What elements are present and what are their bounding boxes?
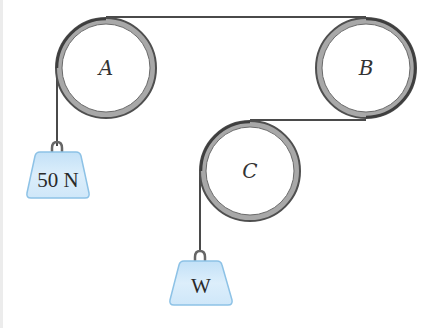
- pulley-a: A: [56, 18, 156, 118]
- pulley-c: C: [200, 121, 300, 221]
- weight-w: W: [170, 251, 232, 305]
- weight-w-label: W: [191, 274, 211, 298]
- pulley-a-label: A: [97, 56, 113, 80]
- diagram-canvas: A B C 50 N W: [0, 0, 438, 328]
- pulley-b: B: [316, 18, 416, 118]
- pulley-c-label: C: [242, 159, 257, 183]
- weight-50n-label: 50 N: [37, 168, 78, 192]
- pulley-diagram: A B C 50 N W: [0, 0, 438, 328]
- pulley-b-label: B: [358, 56, 374, 80]
- weight-50n: 50 N: [27, 142, 89, 198]
